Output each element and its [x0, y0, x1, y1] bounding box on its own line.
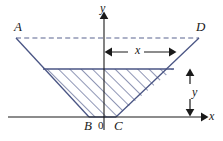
x-dimension-label: x [135, 44, 140, 56]
figure-canvas: A D B C 0 y x x y [0, 0, 223, 141]
x-axis-label: x [209, 110, 214, 122]
vertex-label-c: C [114, 119, 123, 132]
y-axis-label: y [100, 2, 105, 14]
x-dimension-arrowhead-left [105, 48, 113, 57]
y-dimension-arrowhead-top [186, 69, 195, 77]
vertex-label-b: B [84, 119, 92, 132]
trapezoid-diagram-svg [0, 0, 223, 141]
x-dimension-arrowhead-right [169, 48, 177, 57]
hatched-region [43, 69, 174, 117]
origin-label: 0 [98, 120, 104, 131]
vertex-label-a: A [14, 20, 22, 33]
x-axis-arrowhead [201, 113, 209, 122]
vertex-label-d: D [196, 20, 205, 33]
x-dimension-arrow [105, 44, 177, 60]
hatch-fill [43, 69, 174, 117]
y-dimension-label: y [192, 86, 197, 98]
y-dimension-arrowhead-bottom [186, 109, 195, 117]
